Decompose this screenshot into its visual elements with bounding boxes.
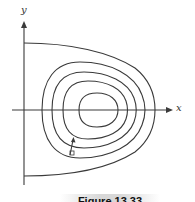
phase-portrait-figure: y x Figure 13.33 xyxy=(0,0,195,202)
normal-vector-arrow-icon xyxy=(71,137,76,143)
figure-caption: Figure 13.33 xyxy=(60,194,160,202)
y-axis-arrow-icon xyxy=(21,21,27,28)
x-axis-arrow-icon xyxy=(166,107,173,113)
y-axis-label: y xyxy=(21,4,27,15)
x-axis-label: x xyxy=(176,102,182,113)
normal-vector xyxy=(70,140,73,155)
phase-portrait-svg xyxy=(0,0,195,202)
